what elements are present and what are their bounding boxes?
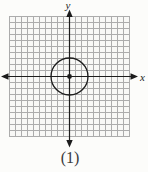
figure-caption: (1) bbox=[0, 149, 140, 167]
center-point-dot bbox=[67, 74, 72, 79]
x-axis-label: x bbox=[139, 71, 145, 83]
y-axis-label: y bbox=[65, 0, 71, 11]
left-arrowhead-icon bbox=[1, 73, 9, 79]
down-arrowhead-icon bbox=[66, 140, 72, 148]
coordinate-plane-figure: y x (1) bbox=[0, 0, 148, 172]
axes-and-circle-drawing: y x bbox=[0, 0, 148, 172]
right-arrowhead-icon bbox=[131, 73, 139, 79]
